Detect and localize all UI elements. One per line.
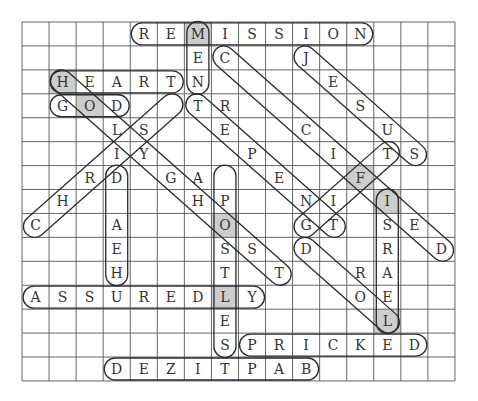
- grid-letter[interactable]: E: [166, 26, 176, 42]
- grid-letter[interactable]: F: [355, 170, 365, 186]
- grid-letter[interactable]: H: [192, 193, 204, 209]
- grid-letter[interactable]: H: [111, 265, 123, 281]
- grid-letter[interactable]: S: [85, 289, 95, 305]
- grid-letter[interactable]: P: [247, 146, 256, 162]
- grid-letter[interactable]: Y: [246, 289, 257, 305]
- grid-letter[interactable]: S: [355, 98, 365, 114]
- grid-letter[interactable]: O: [219, 217, 230, 233]
- grid-letter[interactable]: U: [111, 289, 123, 305]
- grid-letter[interactable]: L: [220, 289, 229, 305]
- grid-letter[interactable]: H: [56, 193, 68, 209]
- grid-letter[interactable]: T: [220, 361, 230, 377]
- grid-letter[interactable]: U: [381, 122, 393, 138]
- grid-letter[interactable]: S: [410, 146, 420, 162]
- grid-letter[interactable]: D: [436, 241, 447, 257]
- grid-letter[interactable]: S: [58, 289, 68, 305]
- word-search-puzzle: REMISSIONECJHEARTNEGODTRSLSECUIYPITSRDGA…: [0, 0, 478, 401]
- grid-letter[interactable]: S: [274, 26, 284, 42]
- grid-letter[interactable]: E: [409, 217, 419, 233]
- grid-letter[interactable]: D: [301, 241, 312, 257]
- grid-letter[interactable]: A: [273, 361, 285, 377]
- grid-letter[interactable]: E: [166, 289, 176, 305]
- grid-letter[interactable]: T: [220, 265, 230, 281]
- grid-letter[interactable]: E: [220, 122, 230, 138]
- grid-letter[interactable]: E: [220, 313, 230, 329]
- grid-letter[interactable]: I: [114, 146, 120, 162]
- grid-letter[interactable]: E: [112, 241, 122, 257]
- grid-letter[interactable]: S: [247, 241, 257, 257]
- grid-letter[interactable]: R: [138, 26, 149, 42]
- grid-letter[interactable]: R: [274, 337, 285, 353]
- grid-letter[interactable]: E: [139, 361, 149, 377]
- grid-letter[interactable]: P: [247, 337, 256, 353]
- grid-letter[interactable]: O: [84, 98, 95, 114]
- grid-letter[interactable]: C: [30, 217, 41, 233]
- grid-letter[interactable]: D: [192, 289, 203, 305]
- grid-letter[interactable]: D: [111, 361, 122, 377]
- grid-letter[interactable]: E: [382, 337, 392, 353]
- grid-letter[interactable]: G: [165, 170, 176, 186]
- grid-letter[interactable]: D: [409, 337, 420, 353]
- grid-letter[interactable]: I: [303, 337, 309, 353]
- grid-letter[interactable]: T: [193, 98, 203, 114]
- grid-letter[interactable]: A: [111, 74, 123, 90]
- grid-letter[interactable]: A: [381, 265, 393, 281]
- grid-letter[interactable]: R: [138, 74, 149, 90]
- grid-letter[interactable]: S: [220, 337, 230, 353]
- grid-letter[interactable]: R: [84, 170, 95, 186]
- grid-letter[interactable]: R: [382, 241, 393, 257]
- grid-letter[interactable]: I: [330, 146, 336, 162]
- grid-letter[interactable]: P: [247, 361, 256, 377]
- grid-letter[interactable]: Z: [166, 361, 176, 377]
- grid-letter[interactable]: I: [222, 26, 228, 42]
- grid-letter[interactable]: O: [355, 289, 366, 305]
- grid-letter[interactable]: T: [166, 74, 176, 90]
- grid-letter[interactable]: B: [301, 361, 311, 377]
- grid-letter[interactable]: E: [193, 50, 203, 66]
- grid-letter[interactable]: N: [354, 26, 366, 42]
- grid-letter[interactable]: I: [330, 193, 336, 209]
- grid-letter[interactable]: C: [328, 337, 339, 353]
- grid-letter[interactable]: A: [29, 289, 41, 305]
- grid-letter[interactable]: S: [247, 26, 257, 42]
- grid-letter[interactable]: I: [385, 193, 391, 209]
- grid-letter[interactable]: K: [355, 337, 366, 353]
- grid-letter[interactable]: E: [328, 74, 338, 90]
- grid-letter[interactable]: E: [274, 170, 284, 186]
- grid-letter[interactable]: T: [274, 265, 284, 281]
- grid-letter[interactable]: L: [383, 313, 392, 329]
- grid-letter[interactable]: A: [111, 217, 123, 233]
- grid-letter[interactable]: C: [220, 50, 231, 66]
- grid-letter[interactable]: O: [327, 26, 338, 42]
- grid-letter[interactable]: I: [303, 26, 309, 42]
- grid-letter[interactable]: N: [192, 74, 204, 90]
- grid-letter[interactable]: I: [195, 361, 201, 377]
- grid-letter[interactable]: J: [301, 50, 309, 66]
- grid-letter[interactable]: C: [301, 122, 312, 138]
- grid-letter[interactable]: M: [191, 26, 205, 42]
- grid-letter[interactable]: R: [138, 289, 149, 305]
- grid-letter[interactable]: H: [56, 74, 68, 90]
